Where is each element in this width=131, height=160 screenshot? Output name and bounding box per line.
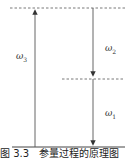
omega3-label: ω3 (16, 52, 27, 63)
energy-diagram (0, 0, 131, 160)
omega1-label: ω1 (105, 109, 116, 120)
omega2-label: ω2 (105, 44, 116, 55)
figure-caption: 图 3.3 参量过程的原理图 (0, 149, 131, 159)
